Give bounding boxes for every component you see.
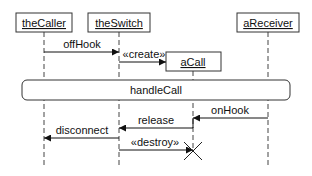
message-destroy-label: «destroy»	[131, 136, 179, 148]
sequence-diagram: theCaller theSwitch aReceiver aCall hand…	[0, 0, 312, 176]
participant-label: aCall	[180, 56, 205, 68]
message-onhook-label: onHook	[211, 104, 249, 116]
participant-acall: aCall	[166, 52, 221, 71]
participant-thecaller: theCaller	[16, 13, 72, 32]
message-release-label: release	[138, 114, 174, 126]
participant-label: theSwitch	[95, 17, 143, 29]
message-disconnect-label: disconnect	[56, 124, 109, 136]
message-create-label: «create»	[123, 48, 166, 60]
participant-theswitch: theSwitch	[88, 13, 150, 32]
participant-label: aReceiver	[243, 17, 293, 29]
participant-label: theCaller	[22, 17, 66, 29]
fragment-label: handleCall	[130, 84, 182, 96]
message-offhook-label: offHook	[63, 38, 101, 50]
participant-areceiver: aReceiver	[237, 13, 299, 32]
fragment-handlecall: handleCall	[22, 80, 290, 100]
